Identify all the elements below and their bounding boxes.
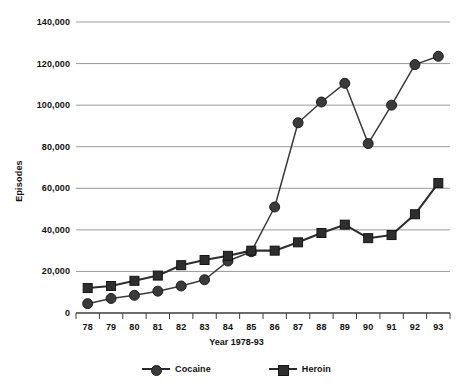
data-point-heroin-84	[223, 251, 232, 260]
data-point-cocaine-92	[410, 60, 420, 70]
legend-label-cocaine: Cocaine	[175, 364, 211, 374]
y-tick-label: 60,000	[8, 183, 70, 193]
data-point-cocaine-91	[387, 100, 397, 110]
legend-label-heroin: Heroin	[302, 364, 331, 374]
legend-item-cocaine[interactable]: Cocaine	[142, 363, 211, 375]
data-point-heroin-92	[410, 210, 419, 219]
data-point-cocaine-80	[129, 290, 139, 300]
data-point-heroin-82	[177, 261, 186, 270]
data-point-heroin-81	[153, 271, 162, 280]
data-point-cocaine-78	[83, 299, 93, 309]
data-point-cocaine-90	[363, 139, 373, 149]
x-tick-label-79: 79	[106, 322, 116, 332]
x-tick-label-93: 93	[433, 322, 443, 332]
data-point-heroin-91	[387, 231, 396, 240]
x-tick-label-81: 81	[153, 322, 163, 332]
x-tick-label-80: 80	[129, 322, 139, 332]
data-point-cocaine-82	[176, 281, 186, 291]
chart-container: Episodes 020,00040,00060,00080,000100,00…	[0, 0, 473, 390]
series-line-cocaine	[88, 56, 439, 303]
data-point-heroin-87	[294, 238, 303, 247]
x-tick-label-90: 90	[363, 322, 373, 332]
chart-plot-area	[0, 0, 473, 390]
x-axis-title: Year 1978-93	[0, 337, 473, 347]
data-point-heroin-79	[107, 281, 116, 290]
x-tick-label-86: 86	[270, 322, 280, 332]
data-point-heroin-80	[130, 276, 139, 285]
data-point-cocaine-83	[200, 275, 210, 285]
circle-marker-icon	[142, 363, 170, 375]
data-point-heroin-78	[83, 284, 92, 293]
x-tick-label-85: 85	[246, 322, 256, 332]
data-point-cocaine-81	[153, 286, 163, 296]
data-point-cocaine-89	[340, 78, 350, 88]
y-tick-label: 40,000	[8, 225, 70, 235]
x-tick-label-82: 82	[176, 322, 186, 332]
data-point-cocaine-86	[270, 202, 280, 212]
chart-legend: Cocaine Heroin	[0, 363, 473, 375]
series-line-heroin	[88, 183, 439, 288]
x-tick-label-92: 92	[410, 322, 420, 332]
data-point-heroin-85	[247, 246, 256, 255]
x-tick-label-91: 91	[386, 322, 396, 332]
square-marker-icon	[269, 363, 297, 375]
data-point-heroin-86	[270, 246, 279, 255]
data-point-heroin-93	[434, 179, 443, 188]
data-point-heroin-88	[317, 228, 326, 237]
y-tick-label: 100,000	[8, 100, 70, 110]
y-tick-label: 140,000	[8, 17, 70, 27]
data-point-cocaine-93	[433, 51, 443, 61]
data-point-cocaine-87	[293, 118, 303, 128]
data-point-heroin-83	[200, 255, 209, 264]
x-tick-label-88: 88	[316, 322, 326, 332]
data-point-heroin-90	[364, 234, 373, 243]
x-tick-label-83: 83	[199, 322, 209, 332]
x-axis-ticks	[76, 313, 450, 319]
y-tick-label: 0	[8, 308, 70, 318]
y-tick-label: 120,000	[8, 59, 70, 69]
data-point-heroin-89	[340, 220, 349, 229]
data-point-cocaine-88	[316, 97, 326, 107]
legend-item-heroin[interactable]: Heroin	[269, 363, 331, 375]
x-tick-label-87: 87	[293, 322, 303, 332]
y-tick-label: 80,000	[8, 142, 70, 152]
y-tick-label: 20,000	[8, 266, 70, 276]
y-axis-tick-labels: 020,00040,00060,00080,000100,000120,0001…	[8, 0, 70, 390]
x-tick-label-89: 89	[340, 322, 350, 332]
x-tick-label-84: 84	[223, 322, 233, 332]
data-point-cocaine-79	[106, 293, 116, 303]
x-tick-label-78: 78	[83, 322, 93, 332]
